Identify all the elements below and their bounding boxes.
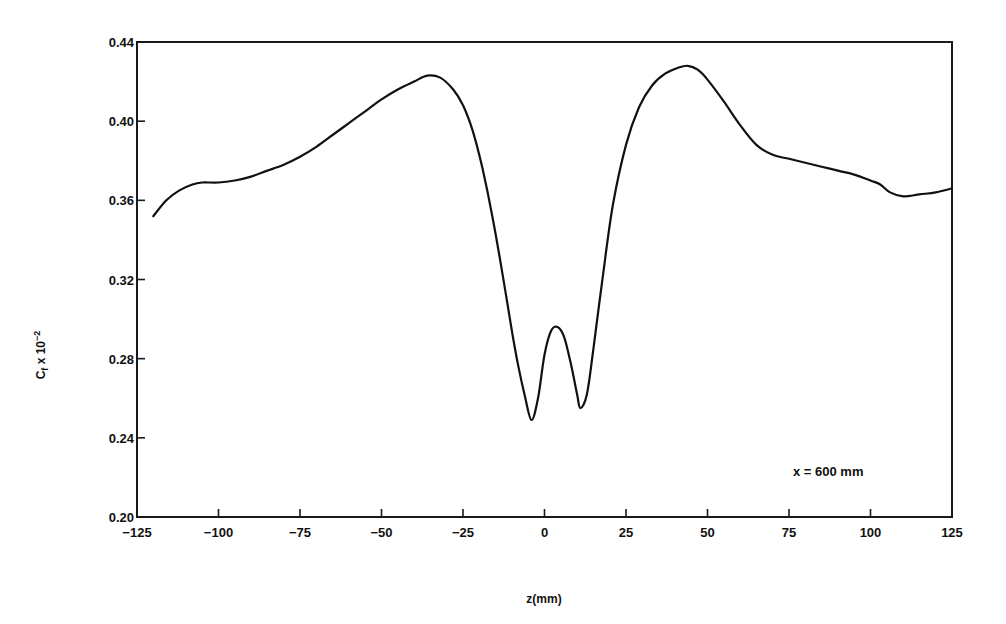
data-line-cf xyxy=(153,66,952,420)
x-tick-label: 50 xyxy=(700,525,714,540)
x-tick-label: −25 xyxy=(452,525,474,540)
chart: −125−100−75−50−250255075100125 0.200.240… xyxy=(0,0,1006,624)
x-tick-label: −50 xyxy=(370,525,392,540)
y-axis-title-sup: −2 xyxy=(32,331,42,341)
x-tick-label: −100 xyxy=(204,525,233,540)
x-tick-label: 75 xyxy=(782,525,796,540)
y-axis-title: Cf x 10−2 xyxy=(32,331,50,380)
y-axis-title-rest: x 10 xyxy=(34,341,48,368)
y-tick-label: 0.44 xyxy=(109,35,135,50)
plot-frame xyxy=(137,42,952,517)
svg-text:Cf x 10−2: Cf x 10−2 xyxy=(32,331,50,380)
x-tick-label: 0 xyxy=(541,525,548,540)
y-axis-ticks: 0.200.240.280.320.360.400.44 xyxy=(109,35,145,525)
x-tick-label: 25 xyxy=(619,525,633,540)
x-tick-label: −75 xyxy=(289,525,311,540)
y-tick-label: 0.40 xyxy=(109,114,134,129)
x-axis-title: z(mm) xyxy=(526,592,561,606)
y-axis-title-main: C xyxy=(34,370,48,379)
y-tick-label: 0.20 xyxy=(109,510,134,525)
annotation-station: x = 600 mm xyxy=(793,464,863,479)
x-tick-label: 125 xyxy=(941,525,963,540)
x-axis-ticks: −125−100−75−50−250255075100125 xyxy=(122,509,963,540)
y-tick-label: 0.36 xyxy=(109,193,134,208)
x-tick-label: 100 xyxy=(860,525,882,540)
y-tick-label: 0.24 xyxy=(109,431,135,446)
y-tick-label: 0.28 xyxy=(109,352,134,367)
y-tick-label: 0.32 xyxy=(109,273,134,288)
x-tick-label: −125 xyxy=(122,525,151,540)
